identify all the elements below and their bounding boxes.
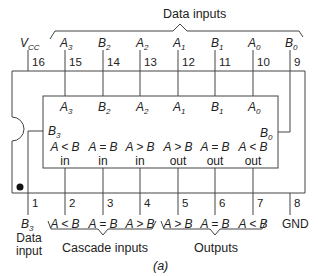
comparator-block bbox=[43, 96, 278, 168]
svg-text:10: 10 bbox=[257, 56, 270, 68]
b3-wire bbox=[28, 131, 43, 193]
svg-text:15: 15 bbox=[69, 56, 82, 68]
svg-text:A3: A3 bbox=[59, 36, 73, 52]
data-input-label-line1: Data bbox=[16, 231, 42, 245]
svg-text:1: 1 bbox=[32, 197, 38, 209]
svg-text:B2: B2 bbox=[98, 36, 111, 52]
bottom-pin-names: B3 A < B A = B A > B A > B A = B A < B G… bbox=[21, 217, 309, 233]
svg-text:13: 13 bbox=[144, 56, 157, 68]
svg-text:B1: B1 bbox=[211, 36, 223, 52]
svg-text:5: 5 bbox=[182, 197, 188, 209]
top-pin-names: VCC A3 B2 A2 A1 B1 A0 B0 bbox=[20, 36, 298, 52]
svg-text:A2: A2 bbox=[135, 100, 149, 116]
top-pin-numbers: 16 15 14 13 12 11 10 9 bbox=[32, 56, 300, 68]
svg-text:VCC: VCC bbox=[20, 36, 40, 52]
svg-text:in: in bbox=[60, 154, 69, 168]
svg-text:8: 8 bbox=[294, 197, 300, 209]
svg-text:9: 9 bbox=[294, 56, 300, 68]
svg-text:B2: B2 bbox=[98, 100, 111, 116]
figure-caption: (a) bbox=[153, 259, 168, 273]
inner-b3-label: B3 bbox=[48, 124, 61, 140]
bottom-pin-numbers: 1 2 3 4 5 6 7 8 bbox=[32, 197, 300, 209]
svg-text:A2: A2 bbox=[135, 36, 149, 52]
svg-text:A < B: A < B bbox=[237, 140, 267, 154]
svg-text:2: 2 bbox=[69, 197, 75, 209]
svg-text:A = B: A = B bbox=[87, 140, 117, 154]
comparator-ic-pinout-diagram: Data inputs VCC A3 B2 A2 A1 B1 A0 B0 16 … bbox=[0, 0, 318, 276]
svg-text:GND: GND bbox=[282, 217, 309, 231]
svg-text:7: 7 bbox=[257, 197, 263, 209]
svg-text:6: 6 bbox=[219, 197, 225, 209]
svg-text:in: in bbox=[98, 154, 107, 168]
svg-text:in: in bbox=[135, 154, 144, 168]
svg-text:out: out bbox=[245, 154, 262, 168]
svg-text:out: out bbox=[170, 154, 187, 168]
bottom-pin-leads bbox=[28, 168, 290, 215]
svg-text:B0: B0 bbox=[285, 36, 298, 52]
svg-text:A0: A0 bbox=[247, 100, 261, 116]
svg-text:A < B: A < B bbox=[49, 140, 79, 154]
data-input-label-line2: input bbox=[16, 244, 43, 258]
svg-text:16: 16 bbox=[32, 56, 45, 68]
svg-text:3: 3 bbox=[107, 197, 113, 209]
inner-top-labels: A3 B2 A2 A1 B1 A0 bbox=[59, 100, 261, 116]
svg-text:A > B: A > B bbox=[124, 140, 154, 154]
top-pin-leads bbox=[28, 50, 290, 132]
svg-text:A > B: A > B bbox=[162, 140, 192, 154]
svg-text:A3: A3 bbox=[59, 100, 73, 116]
svg-text:B1: B1 bbox=[211, 100, 223, 116]
svg-text:11: 11 bbox=[219, 56, 231, 68]
svg-text:A0: A0 bbox=[247, 36, 261, 52]
svg-text:4: 4 bbox=[144, 197, 151, 209]
outputs-label: Outputs bbox=[194, 241, 238, 255]
svg-text:A1: A1 bbox=[172, 36, 185, 52]
data-inputs-label: Data inputs bbox=[163, 7, 226, 21]
svg-text:14: 14 bbox=[107, 56, 120, 68]
svg-text:A = B: A = B bbox=[199, 140, 229, 154]
inner-bottom-labels: A < B in A = B in A > B in A > B out A =… bbox=[49, 140, 267, 168]
cascade-inputs-label: Cascade inputs bbox=[62, 241, 148, 255]
svg-text:out: out bbox=[207, 154, 224, 168]
svg-text:A1: A1 bbox=[172, 100, 185, 116]
pin1-indicator-dot bbox=[17, 184, 24, 191]
svg-text:12: 12 bbox=[182, 56, 195, 68]
